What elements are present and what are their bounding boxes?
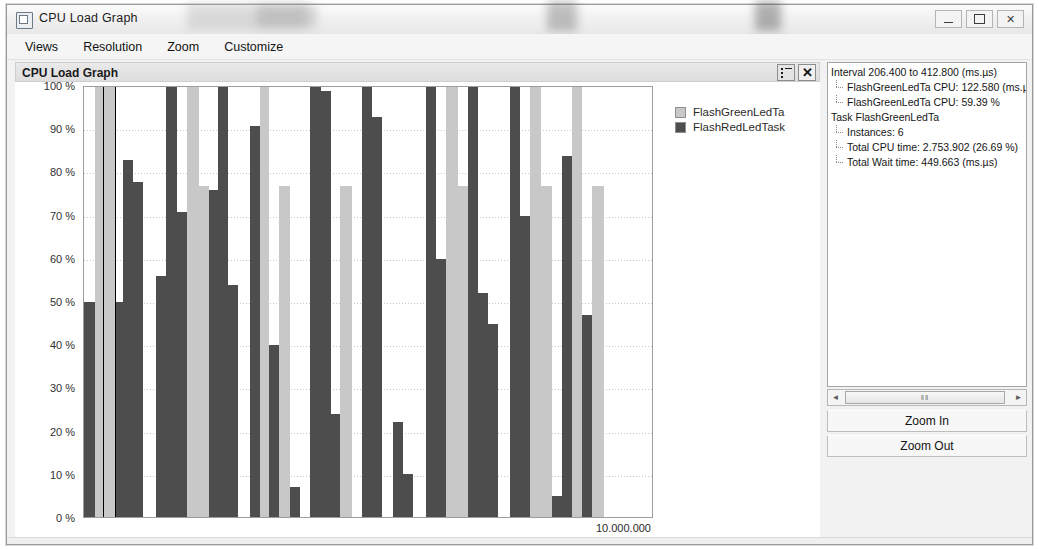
bar-6[interactable] <box>143 87 156 517</box>
plot-area[interactable] <box>83 86 653 518</box>
bar-fill <box>199 186 209 517</box>
bar-14[interactable] <box>228 87 238 517</box>
bar-4[interactable] <box>123 87 133 517</box>
zoom-in-button[interactable]: Zoom In <box>827 410 1027 432</box>
bar-34[interactable] <box>436 87 446 517</box>
maximize-button[interactable] <box>966 10 993 28</box>
tree-row[interactable]: Instances: 6 <box>831 125 1026 140</box>
bar-17[interactable] <box>260 87 269 517</box>
bar-3[interactable] <box>115 87 123 517</box>
y-tick-label: 70 % <box>50 210 75 222</box>
bar-21[interactable] <box>300 87 310 517</box>
bar-24[interactable] <box>331 87 340 517</box>
bar-46[interactable] <box>562 87 572 517</box>
bar-5[interactable] <box>133 87 143 517</box>
bar-9[interactable] <box>177 87 187 517</box>
bar-43[interactable] <box>530 87 541 517</box>
bar-fill <box>104 87 115 517</box>
chart-header: CPU Load Graph ✕ <box>15 62 820 82</box>
bar-45[interactable] <box>552 87 562 517</box>
y-tick-label: 10 % <box>50 469 75 481</box>
legend-toggle-button[interactable] <box>777 64 795 81</box>
bar-16[interactable] <box>250 87 260 517</box>
bar-30[interactable] <box>393 87 403 517</box>
bar-0[interactable] <box>84 87 95 517</box>
bar-40[interactable] <box>498 87 510 517</box>
bar-18[interactable] <box>269 87 279 517</box>
bar-fill <box>478 293 488 517</box>
bar-8[interactable] <box>166 87 177 517</box>
tree-row[interactable]: Task FlashGreenLedTa <box>831 110 1026 125</box>
bar-fill <box>458 186 468 517</box>
bar-36[interactable] <box>458 87 468 517</box>
menu-item-customize[interactable]: Customize <box>224 40 283 54</box>
chart-close-button[interactable]: ✕ <box>798 64 816 81</box>
window-controls: ✕ <box>935 10 1024 28</box>
scrollbar-track[interactable]: ‖‖ <box>843 390 1011 405</box>
bar-7[interactable] <box>156 87 166 517</box>
scrollbar-thumb[interactable]: ‖‖ <box>845 391 1005 404</box>
window-icon <box>16 12 33 29</box>
tree-row[interactable]: FlashGreenLedTa CPU: 59.39 % <box>831 95 1026 110</box>
bar-2[interactable] <box>104 87 115 517</box>
bar-48[interactable] <box>582 87 592 517</box>
bar-10[interactable] <box>187 87 199 517</box>
chart-pane: CPU Load Graph ✕ 100 %90 %80 %70 %60 %50… <box>15 62 820 538</box>
legend-item[interactable]: FlashGreenLedTa <box>675 106 815 118</box>
bar-series[interactable] <box>84 87 652 517</box>
bar-41[interactable] <box>510 87 520 517</box>
tree-row[interactable]: FlashGreenLedTa CPU: 122.580 (ms.µ <box>831 80 1026 95</box>
statistics-tree[interactable]: Interval 206.400 to 412.800 (ms.µs)Flash… <box>827 62 1027 387</box>
menu-item-views[interactable]: Views <box>25 40 58 54</box>
legend-item[interactable]: FlashRedLedTask <box>675 121 815 133</box>
bar-49[interactable] <box>592 87 604 517</box>
menu-item-resolution[interactable]: Resolution <box>83 40 142 54</box>
window-bottom-strip <box>7 537 1032 544</box>
bar-19[interactable] <box>279 87 290 517</box>
list-icon <box>781 68 792 77</box>
bar-31[interactable] <box>403 87 413 517</box>
tree-row[interactable]: Total CPU time: 2.753.902 (26.69 %) <box>831 140 1026 155</box>
bar-fill <box>582 315 592 517</box>
menu-item-zoom[interactable]: Zoom <box>167 40 199 54</box>
scroll-right-arrow[interactable]: ► <box>1011 390 1026 405</box>
bar-27[interactable] <box>362 87 372 517</box>
bar-13[interactable] <box>218 87 228 517</box>
bar-fill <box>541 186 552 517</box>
bar-25[interactable] <box>340 87 352 517</box>
bar-fill <box>218 87 228 517</box>
tree-row[interactable]: Interval 206.400 to 412.800 (ms.µs) <box>831 65 1026 80</box>
bar-12[interactable] <box>209 87 218 517</box>
cpu-load-graph-window: CPU Load Graph ✕ ViewsResolutionZoomCust… <box>6 4 1033 545</box>
bar-42[interactable] <box>520 87 530 517</box>
legend-swatch <box>675 107 686 118</box>
bar-fill <box>321 91 331 517</box>
bar-fill <box>95 87 104 517</box>
bar-38[interactable] <box>478 87 488 517</box>
bar-35[interactable] <box>446 87 458 517</box>
bar-22[interactable] <box>310 87 321 517</box>
bar-29[interactable] <box>382 87 393 517</box>
bar-26[interactable] <box>352 87 362 517</box>
bar-33[interactable] <box>426 87 436 517</box>
scroll-left-arrow[interactable]: ◄ <box>828 390 843 405</box>
window-title: CPU Load Graph <box>39 11 138 25</box>
bar-32[interactable] <box>413 87 426 517</box>
tree-row[interactable]: Total Wait time: 449.663 (ms.µs) <box>831 155 1026 170</box>
bar-11[interactable] <box>199 87 209 517</box>
bar-47[interactable] <box>572 87 582 517</box>
bar-37[interactable] <box>468 87 478 517</box>
bar-15[interactable] <box>238 87 250 517</box>
bar-44[interactable] <box>541 87 552 517</box>
zoom-out-button[interactable]: Zoom Out <box>827 435 1027 457</box>
y-axis: 100 %90 %80 %70 %60 %50 %40 %30 %20 %10 … <box>15 82 81 522</box>
bar-23[interactable] <box>321 87 331 517</box>
bar-fill <box>426 87 436 517</box>
bar-1[interactable] <box>95 87 104 517</box>
minimize-button[interactable] <box>935 10 962 28</box>
horizontal-scrollbar[interactable]: ◄ ‖‖ ► <box>827 389 1027 406</box>
close-button[interactable]: ✕ <box>997 10 1024 28</box>
bar-28[interactable] <box>372 87 382 517</box>
bar-39[interactable] <box>488 87 498 517</box>
bar-20[interactable] <box>290 87 300 517</box>
